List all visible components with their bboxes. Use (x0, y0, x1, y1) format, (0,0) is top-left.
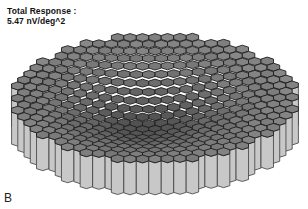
hex-cell (105, 40, 118, 48)
total-response-annotation: Total Response : 5.47 nV/deg^2 (7, 6, 76, 26)
hex-cell (124, 62, 137, 70)
hex-cell (136, 47, 149, 55)
hex-cell (80, 68, 92, 76)
hex-cell (168, 87, 180, 95)
hex-cell (86, 60, 99, 68)
hex-cell (261, 129, 274, 137)
hex-cell (130, 54, 142, 62)
hex-cell (99, 47, 112, 55)
hex-cell (205, 148, 218, 156)
hex-cell (174, 47, 187, 55)
hex-cell (155, 54, 168, 62)
hex-cell (62, 143, 74, 151)
hex-cell (130, 40, 142, 48)
hex-cell (12, 94, 25, 102)
hex-cell (155, 88, 168, 96)
hex-cell (186, 92, 198, 100)
hex-cell (143, 55, 156, 63)
hex-cell (99, 61, 112, 69)
hex-cell (124, 79, 137, 87)
hex-cell (155, 40, 168, 48)
annotation-value: 5.47 nV/deg^2 (7, 16, 76, 26)
hex-cell (136, 113, 149, 121)
hex-cell (174, 61, 187, 69)
hex-cell (136, 62, 149, 70)
hex-cell (174, 78, 187, 86)
hex-cell (111, 78, 123, 86)
hex-cell (93, 85, 106, 93)
hex-cell (105, 54, 118, 62)
hex-cell (136, 79, 149, 87)
hex-cell (143, 71, 156, 79)
hex-cell (143, 88, 156, 96)
hex-cell (80, 83, 92, 91)
hex-cell (136, 97, 149, 105)
hex-cell (118, 104, 131, 112)
hex-cell (149, 79, 161, 87)
hex-cell (217, 148, 229, 156)
hex-cell (168, 70, 180, 78)
hex-cell (118, 40, 131, 48)
hex-cell (86, 46, 99, 54)
hex-cell (99, 77, 112, 85)
hex-cell (136, 155, 149, 163)
panel-label: B (4, 191, 12, 205)
hex-cell (80, 53, 92, 61)
hex-cell (199, 75, 212, 83)
hex-cell (155, 70, 168, 78)
hex-cell (161, 96, 174, 104)
hex-cell (155, 105, 168, 113)
hex-cell (105, 86, 118, 94)
hex-cell (124, 47, 137, 55)
hex-cell (186, 76, 198, 84)
hex-cell (118, 70, 131, 78)
hex-cell (74, 60, 87, 68)
hex-cell (93, 69, 106, 77)
hex-cell (168, 54, 180, 62)
hex-cell (180, 85, 193, 93)
hex-cell (111, 95, 123, 103)
hex-cell (199, 60, 212, 68)
hexagonal-surface-plot (0, 0, 308, 209)
hex-cell (143, 105, 156, 113)
hex-cell (192, 53, 205, 61)
hex-cell (180, 69, 193, 77)
hex-cell (68, 66, 81, 74)
hex-cell (93, 53, 106, 61)
hex-cell (99, 94, 112, 102)
hex-cell (130, 105, 142, 113)
hex-cell (136, 34, 149, 42)
hex-cell (37, 131, 50, 139)
hex-cell (130, 71, 142, 79)
hex-cell (186, 46, 198, 54)
hex-cell (180, 54, 193, 62)
hex-cell (149, 97, 161, 105)
hex-cell (80, 149, 92, 157)
hex-cell (124, 96, 137, 104)
hex-cell (186, 154, 198, 162)
hex-cell (105, 69, 118, 77)
hex-cell (124, 155, 137, 163)
hex-cell (174, 94, 187, 102)
hex-cell (161, 62, 174, 70)
hex-cell (174, 154, 187, 162)
hex-cell (161, 155, 174, 163)
hex-cell (143, 40, 156, 48)
hex-cell (149, 62, 161, 70)
hex-cell (149, 47, 161, 55)
hex-cell (93, 149, 106, 157)
hex-cell (130, 88, 142, 96)
hex-cell (205, 67, 218, 75)
hex-cell (236, 142, 248, 150)
hex-cell (12, 82, 25, 90)
hex-cell (118, 87, 131, 95)
hex-cell (118, 54, 131, 62)
hex-cell (186, 61, 198, 69)
hex-cell (74, 74, 87, 82)
hex-cell (149, 155, 161, 163)
hex-cell (192, 68, 205, 76)
hex-cell (168, 40, 180, 48)
hex-cell (111, 62, 123, 70)
annotation-title: Total Response : (7, 6, 76, 16)
hex-cell (86, 76, 99, 84)
